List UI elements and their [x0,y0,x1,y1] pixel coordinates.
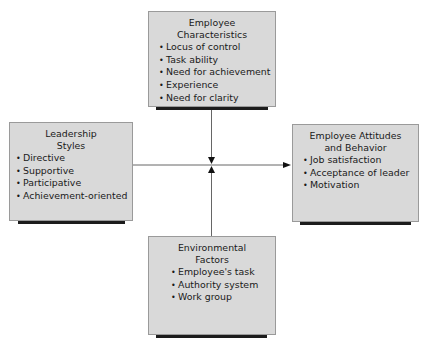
employee-attitudes-box: Employee Attitudes and Behavior Job sati… [292,124,419,222]
attitudes-list: Job satisfaction Acceptance of leader Mo… [303,154,418,192]
box-title: Environmental Factors [149,242,275,265]
list-item: Participative [16,177,132,190]
leadership-styles-box: Leadership Styles Directive Supportive P… [9,122,133,221]
box-title: Leadership Styles [10,128,132,151]
box-title: Employee Attitudes and Behavior [293,130,418,153]
box-shadow [300,222,411,225]
list-item: Work group [171,291,275,304]
list-item: Motivation [303,179,418,192]
list-item: Directive [16,152,132,165]
characteristics-list: Locus of control Task ability Need for a… [159,41,275,104]
arrow-up-icon [208,166,215,173]
list-item: Task ability [159,54,275,67]
list-item: Job satisfaction [303,154,418,167]
list-item: Authority system [171,279,275,292]
factors-list: Employee's task Authority system Work gr… [171,266,275,304]
box-title: Employee Characteristics [149,17,275,40]
environmental-factors-box: Environmental Factors Employee's task Au… [148,236,276,335]
styles-list: Directive Supportive Participative Achie… [16,152,132,202]
list-item: Achievement-oriented [16,190,132,203]
arrow-to-outcomes-icon [283,162,291,168]
box-shadow [156,107,268,110]
list-item: Supportive [16,165,132,178]
list-item: Acceptance of leader [303,167,418,180]
employee-characteristics-box: Employee Characteristics Locus of contro… [148,11,276,107]
box-shadow [18,221,125,224]
box-shadow [156,335,267,338]
arrow-down-icon [208,157,215,164]
list-item: Experience [159,79,275,92]
list-item: Locus of control [159,41,275,54]
list-item: Employee's task [171,266,275,279]
list-item: Need for achievement [159,66,275,79]
list-item: Need for clarity [159,92,275,105]
